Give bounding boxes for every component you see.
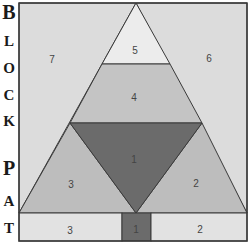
label-strip-center: 1 — [133, 224, 139, 235]
label-piece-1: 1 — [131, 154, 137, 165]
label-piece-7: 7 — [49, 54, 55, 65]
label-piece-5: 5 — [132, 45, 138, 56]
label-piece-6: 6 — [206, 53, 212, 64]
label-piece-4: 4 — [131, 92, 137, 103]
label-piece-2: 2 — [193, 178, 199, 189]
label-strip-left: 3 — [67, 225, 73, 236]
quilt-block-diagram: 7 6 5 4 1 3 2 3 1 2 — [0, 0, 252, 243]
label-strip-right: 2 — [197, 224, 203, 235]
label-piece-3: 3 — [68, 179, 74, 190]
